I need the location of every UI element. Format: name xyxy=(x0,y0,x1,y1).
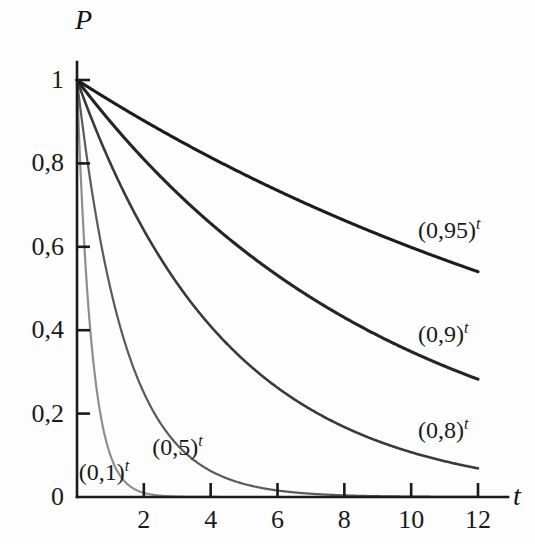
y-axis-label: P xyxy=(75,6,92,34)
curve-label-exponent: t xyxy=(464,415,468,432)
curve-label: (0,95)t xyxy=(418,218,480,242)
exponential-decay-chart: 10,80,60,40,20 24681012 (0,95)t(0,9)t(0,… xyxy=(0,0,535,544)
curve-label-base: (0,9) xyxy=(418,321,464,347)
curve-label-base: (0,95) xyxy=(418,217,476,243)
x-tick-label: 12 xyxy=(448,507,508,533)
curve-label-base: (0,1) xyxy=(79,459,125,485)
y-tick-label: 1 xyxy=(0,67,64,93)
y-tick-label: 0,2 xyxy=(0,401,64,427)
curve-label: (0,5)t xyxy=(152,435,202,459)
y-tick-label: 0,4 xyxy=(0,317,64,343)
x-tick-label: 6 xyxy=(248,507,308,533)
x-tick-label: 8 xyxy=(314,507,374,533)
curve-label: (0,1)t xyxy=(79,460,129,484)
curve-label: (0,9)t xyxy=(418,322,468,346)
curve-label-exponent: t xyxy=(464,319,468,336)
x-axis-label: t xyxy=(513,482,521,510)
curve-label-exponent: t xyxy=(125,457,129,474)
curve-label-exponent: t xyxy=(476,215,480,232)
x-tick-label: 2 xyxy=(114,507,174,533)
curve-label-exponent: t xyxy=(198,432,202,449)
x-tick-label: 4 xyxy=(181,507,241,533)
x-ticks-group xyxy=(144,483,478,497)
x-tick-label: 10 xyxy=(381,507,441,533)
y-tick-label: 0,8 xyxy=(0,150,64,176)
y-tick-label: 0,6 xyxy=(0,234,64,260)
curve-label: (0,8)t xyxy=(418,418,468,442)
curve-label-base: (0,8) xyxy=(418,417,464,443)
curve-label-base: (0,5) xyxy=(152,434,198,460)
y-tick-label: 0 xyxy=(0,484,64,510)
